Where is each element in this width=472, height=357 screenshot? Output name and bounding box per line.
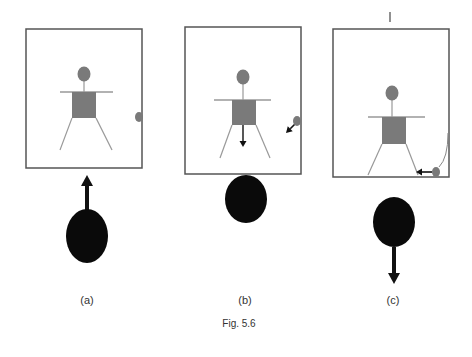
person-body bbox=[382, 117, 406, 144]
panel-label-c: (c) bbox=[387, 294, 400, 306]
panel-a bbox=[26, 29, 143, 263]
panel-label-b: (b) bbox=[238, 294, 251, 306]
arrow-down-icon bbox=[388, 273, 400, 284]
person-body bbox=[232, 100, 256, 125]
person-head bbox=[237, 70, 250, 85]
panel-c bbox=[333, 12, 449, 284]
person-body bbox=[72, 92, 96, 118]
panel-label-a: (a) bbox=[80, 294, 93, 306]
figure-caption: Fig. 5.6 bbox=[222, 318, 255, 329]
small-ball bbox=[135, 112, 143, 122]
small-ball bbox=[293, 116, 301, 126]
big-ball bbox=[66, 209, 108, 263]
big-ball bbox=[373, 197, 415, 247]
figure-canvas bbox=[0, 0, 472, 357]
big-ball bbox=[225, 175, 267, 223]
panel-b bbox=[185, 27, 301, 223]
arrow-up-icon bbox=[81, 175, 93, 186]
person-head bbox=[78, 67, 91, 82]
frame-box bbox=[333, 29, 449, 177]
panels-group bbox=[26, 12, 449, 284]
person-head bbox=[386, 86, 399, 101]
small-ball bbox=[432, 167, 440, 177]
